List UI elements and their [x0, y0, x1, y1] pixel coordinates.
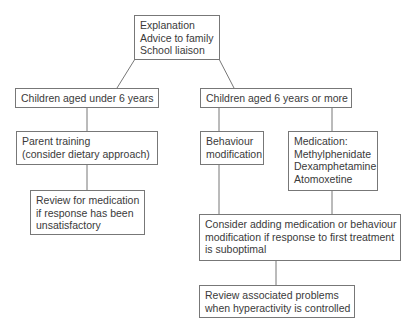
node-parent-training: Parent training (consider dietary approa…	[16, 131, 158, 165]
node-text: Dexamphetamine	[294, 160, 372, 173]
node-text: modification	[206, 148, 258, 161]
node-review-medication: Review for medication if response has be…	[30, 190, 145, 235]
edge-root-over6	[219, 59, 234, 88]
node-text: Consider adding medication or behaviour	[205, 218, 395, 231]
node-over6: Children aged 6 years or more	[200, 88, 352, 108]
node-text: (consider dietary approach)	[22, 148, 152, 161]
node-text: unsatisfactory	[36, 219, 139, 232]
node-text: School liaison	[140, 44, 214, 57]
node-medication: Medication: Methylphenidate Dexamphetami…	[288, 131, 378, 191]
node-under6: Children aged under 6 years	[15, 88, 159, 108]
node-text: when hyperactivity is controlled	[205, 302, 349, 315]
node-text: if response has been	[36, 207, 139, 220]
node-text: Medication:	[294, 135, 372, 148]
node-text: is suboptimal	[205, 243, 395, 256]
node-behaviour: Behaviour modification	[200, 131, 264, 165]
node-text: Explanation	[140, 19, 214, 32]
node-text: Behaviour	[206, 135, 258, 148]
node-text: Atomoxetine	[294, 173, 372, 186]
node-consider: Consider adding medication or behaviour …	[199, 214, 401, 261]
flowchart-canvas: Explanation Advice to family School liai…	[0, 0, 413, 330]
node-text: modification if response to first treatm…	[205, 231, 395, 244]
node-text: Parent training	[22, 135, 152, 148]
node-text: Children aged 6 years or more	[206, 92, 346, 105]
node-review-problems: Review associated problems when hyperact…	[199, 285, 355, 318]
node-text: Advice to family	[140, 32, 214, 45]
node-text: Children aged under 6 years	[21, 92, 153, 105]
edge-root-under6	[117, 59, 135, 88]
node-text: Review for medication	[36, 194, 139, 207]
node-text: Methylphenidate	[294, 148, 372, 161]
node-text: Review associated problems	[205, 289, 349, 302]
node-root: Explanation Advice to family School liai…	[134, 15, 220, 60]
